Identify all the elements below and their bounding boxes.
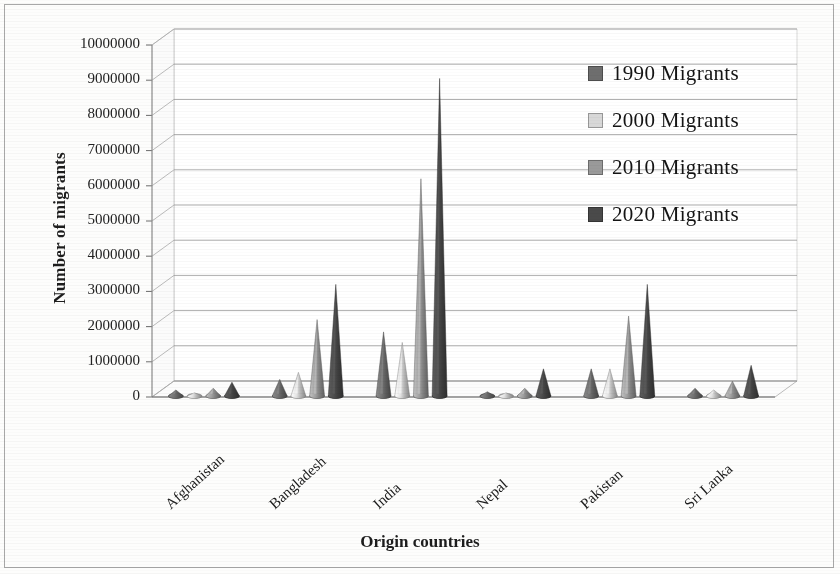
legend-item: 2000 Migrants xyxy=(588,97,739,144)
legend-item: 2020 Migrants xyxy=(588,191,739,238)
legend-item-label: 1990 Migrants xyxy=(612,61,739,86)
legend-swatch-icon xyxy=(588,113,603,128)
legend-item: 2010 Migrants xyxy=(588,144,739,191)
legend-swatch-icon xyxy=(588,207,603,222)
y-axis-tick-label: 10000000 xyxy=(30,35,140,52)
legend-swatch-icon xyxy=(588,160,603,175)
legend-swatch-icon xyxy=(588,66,603,81)
legend-item: 1990 Migrants xyxy=(588,50,739,97)
y-axis-tick-label: 5000000 xyxy=(30,211,140,228)
y-axis-tick-label: 1000000 xyxy=(30,352,140,369)
legend-item-label: 2020 Migrants xyxy=(612,202,739,227)
y-axis-tick-label: 3000000 xyxy=(30,281,140,298)
y-axis-tick-label: 2000000 xyxy=(30,317,140,334)
legend-item-label: 2010 Migrants xyxy=(612,155,739,180)
y-axis-tick-label: 9000000 xyxy=(30,70,140,87)
y-axis-tick-label: 0 xyxy=(30,387,140,404)
y-axis-tick-label: 6000000 xyxy=(30,176,140,193)
legend-item-label: 2000 Migrants xyxy=(612,108,739,133)
figure-page: Number of migrants Origin countries 0100… xyxy=(0,0,840,574)
y-axis-tick-label: 7000000 xyxy=(30,141,140,158)
chart-legend: 1990 Migrants2000 Migrants2010 Migrants2… xyxy=(588,50,739,238)
x-axis-title: Origin countries xyxy=(0,532,840,552)
y-axis-tick-label: 4000000 xyxy=(30,246,140,263)
y-axis-tick-label: 8000000 xyxy=(30,105,140,122)
